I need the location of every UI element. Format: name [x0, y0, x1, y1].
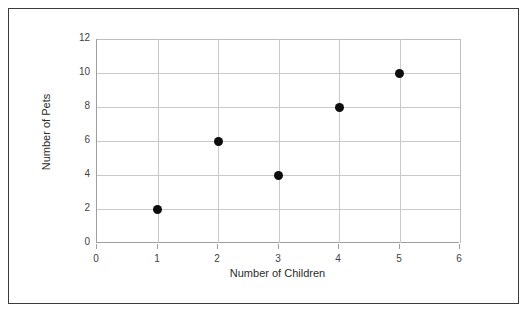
x-axis-tick	[157, 244, 158, 249]
x-axis-tick	[459, 244, 460, 249]
x-axis-title: Number of Children	[96, 267, 459, 279]
gridline-vertical	[460, 39, 461, 243]
plot-area	[96, 39, 459, 243]
y-axis-tick-label: 2	[62, 202, 90, 213]
data-point	[274, 171, 283, 180]
y-axis-tick-label: 6	[62, 134, 90, 145]
y-axis-tick-label: 0	[62, 236, 90, 247]
scatter-chart: 0123456 024681012 Number of Children Num…	[9, 9, 520, 305]
figure-frame: 0123456 024681012 Number of Children Num…	[8, 8, 519, 304]
x-axis-tick	[278, 244, 279, 249]
y-axis-tick-label: 10	[62, 66, 90, 77]
gridline-vertical	[339, 39, 340, 243]
x-axis-tick-label: 6	[444, 253, 474, 264]
data-point	[335, 103, 344, 112]
gridline-vertical	[279, 39, 280, 243]
x-axis-tick-label: 5	[384, 253, 414, 264]
x-axis-tick-label: 4	[323, 253, 353, 264]
x-axis-tick	[399, 244, 400, 249]
data-point	[214, 137, 223, 146]
x-axis-tick-label: 3	[263, 253, 293, 264]
x-axis-tick	[96, 244, 97, 249]
y-axis-tick-label: 4	[62, 168, 90, 179]
x-axis-tick-label: 0	[81, 253, 111, 264]
y-axis-tick-label: 8	[62, 100, 90, 111]
y-axis-title: Number of Pets	[40, 62, 52, 202]
x-axis-tick-label: 1	[142, 253, 172, 264]
data-point	[153, 205, 162, 214]
x-axis-tick	[338, 244, 339, 249]
y-axis-tick-label: 12	[62, 32, 90, 43]
x-axis-tick-label: 2	[202, 253, 232, 264]
data-point	[395, 69, 404, 78]
x-axis-tick	[217, 244, 218, 249]
